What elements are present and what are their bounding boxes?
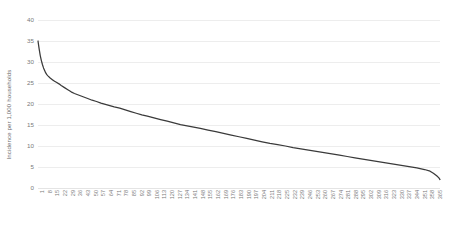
x-tick-label: 344 xyxy=(415,190,421,199)
x-tick-label: 176 xyxy=(231,190,237,199)
y-tick-label: 5 xyxy=(0,164,34,170)
x-tick-label: 190 xyxy=(247,190,253,199)
x-tick-label: 218 xyxy=(277,190,283,199)
x-tick-label: 169 xyxy=(224,190,230,199)
y-tick-label: 15 xyxy=(0,122,34,128)
x-tick-label: 211 xyxy=(270,190,276,199)
x-tick-label: 337 xyxy=(407,190,413,199)
plot-area xyxy=(38,20,440,188)
y-tick-label: 0 xyxy=(0,185,34,191)
x-tick-label: 225 xyxy=(285,190,291,199)
x-tick-label: 85 xyxy=(132,190,138,196)
x-tick-label: 141 xyxy=(193,190,199,199)
x-tick-label: 78 xyxy=(124,190,130,196)
x-tick-label: 274 xyxy=(339,190,345,199)
x-tick-label: 309 xyxy=(377,190,383,199)
x-tick-label: 316 xyxy=(384,190,390,199)
x-tick-label: 57 xyxy=(101,190,107,196)
x-tick-label: 71 xyxy=(117,190,123,196)
y-tick-label: 35 xyxy=(0,38,34,44)
x-tick-label: 64 xyxy=(109,190,115,196)
y-tick-label: 10 xyxy=(0,143,34,149)
incidence-line-chart: Incidence per 1,000 households 051015202… xyxy=(0,0,460,229)
x-tick-label: 267 xyxy=(331,190,337,199)
x-tick-label: 148 xyxy=(201,190,207,199)
x-tick-label: 323 xyxy=(392,190,398,199)
x-tick-label: 253 xyxy=(316,190,322,199)
y-tick-label: 30 xyxy=(0,59,34,65)
x-tick-label: 239 xyxy=(300,190,306,199)
x-tick-label: 358 xyxy=(430,190,436,199)
x-tick-label: 155 xyxy=(208,190,214,199)
x-tick-label: 22 xyxy=(63,190,69,196)
x-tick-label: 15 xyxy=(55,190,61,196)
x-tick-label: 302 xyxy=(369,190,375,199)
x-tick-label: 36 xyxy=(78,190,84,196)
y-axis-tick-labels: 0510152025303540 xyxy=(0,0,34,229)
x-tick-label: 295 xyxy=(361,190,367,199)
x-tick-label: 120 xyxy=(170,190,176,199)
gridline-0 xyxy=(38,188,440,189)
x-axis-tick-labels: 1815222936435057647178859299106113120127… xyxy=(38,190,440,229)
x-tick-label: 127 xyxy=(178,190,184,199)
x-tick-label: 197 xyxy=(254,190,260,199)
x-tick-label: 134 xyxy=(185,190,191,199)
x-tick-label: 50 xyxy=(94,190,100,196)
x-tick-label: 183 xyxy=(239,190,245,199)
x-tick-label: 162 xyxy=(216,190,222,199)
x-tick-label: 113 xyxy=(162,190,168,199)
x-tick-label: 288 xyxy=(354,190,360,199)
x-tick-label: 260 xyxy=(323,190,329,199)
x-tick-label: 232 xyxy=(293,190,299,199)
x-tick-label: 29 xyxy=(71,190,77,196)
x-tick-label: 351 xyxy=(423,190,429,199)
series-line xyxy=(38,20,440,188)
y-tick-label: 20 xyxy=(0,101,34,107)
x-tick-label: 330 xyxy=(400,190,406,199)
x-tick-label: 106 xyxy=(155,190,161,199)
y-tick-label: 25 xyxy=(0,80,34,86)
x-tick-label: 246 xyxy=(308,190,314,199)
x-tick-label: 99 xyxy=(147,190,153,196)
x-tick-label: 281 xyxy=(346,190,352,199)
x-tick-label: 1 xyxy=(40,190,46,193)
y-tick-label: 40 xyxy=(0,17,34,23)
x-tick-label: 43 xyxy=(86,190,92,196)
x-tick-label: 365 xyxy=(438,190,444,199)
x-tick-label: 92 xyxy=(140,190,146,196)
x-tick-label: 204 xyxy=(262,190,268,199)
series-line-path xyxy=(38,41,440,180)
x-tick-label: 8 xyxy=(48,190,54,193)
